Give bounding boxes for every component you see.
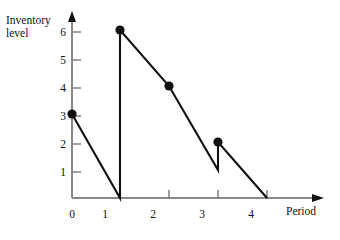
x-axis-ticks (120, 190, 267, 198)
data-point-marker (164, 81, 173, 90)
y-tick-label-3: 3 (60, 110, 66, 122)
x-tick-label-4: 4 (248, 208, 254, 220)
x-axis-label: Period (286, 205, 316, 218)
inventory-line (72, 30, 267, 198)
inventory-markers (67, 25, 222, 146)
y-tick-label-1: 1 (60, 166, 66, 178)
y-tick-label-5: 5 (60, 54, 66, 66)
y-tick-label-2: 2 (60, 138, 66, 150)
x-tick-label-3: 3 (199, 208, 205, 220)
data-point-marker (67, 109, 76, 118)
x-tick-label-2: 2 (150, 208, 156, 220)
y-tick-label-6: 6 (60, 26, 66, 38)
inventory-level-chart: 6 5 4 3 2 1 0 1 2 3 4 (0, 0, 340, 240)
y-axis-tick-labels: 6 5 4 3 2 1 (60, 26, 66, 178)
x-tick-label-1: 1 (102, 208, 108, 220)
y-axis-label: Inventory level (6, 14, 51, 40)
y-axis-ticks (72, 32, 81, 172)
x-tick-label-0: 0 (69, 208, 75, 220)
data-point-marker (213, 137, 222, 146)
y-axis-arrow-icon (68, 11, 76, 22)
y-tick-label-4: 4 (60, 82, 66, 94)
x-axis-tick-labels: 0 1 2 3 4 (69, 208, 254, 220)
chart-plot-area: 6 5 4 3 2 1 0 1 2 3 4 (0, 0, 340, 240)
data-point-marker (115, 25, 124, 34)
x-axis-arrow-icon (312, 194, 324, 202)
inventory-series (72, 30, 267, 198)
